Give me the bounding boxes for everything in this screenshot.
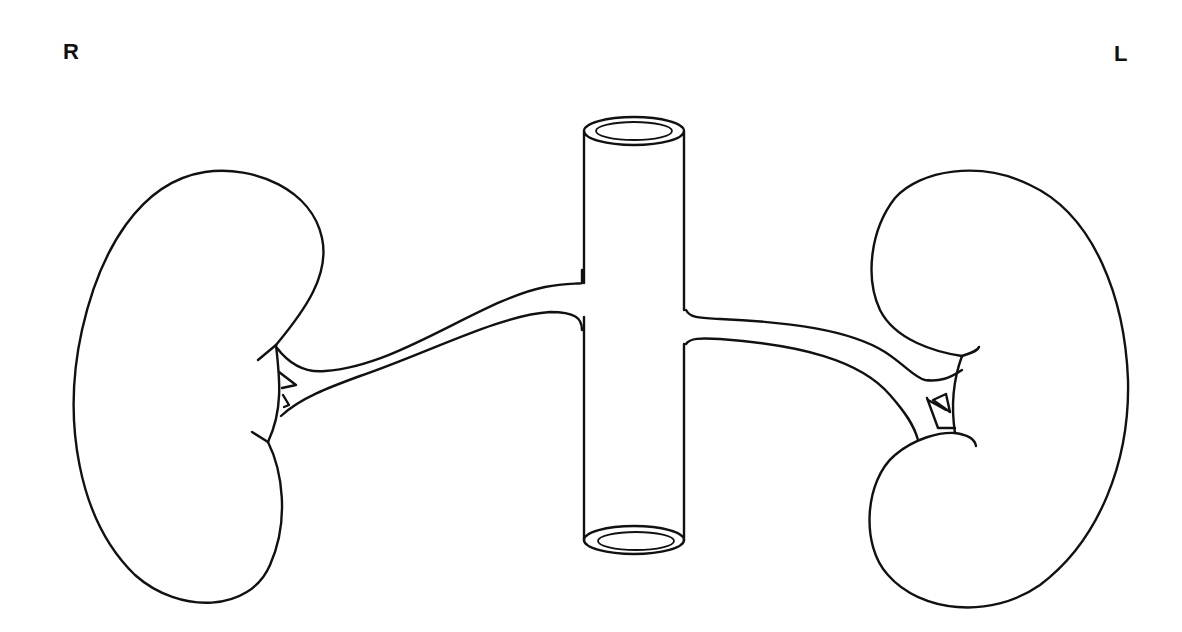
right-renal-vein bbox=[268, 270, 582, 442]
left-renal-vein bbox=[686, 310, 962, 440]
kidney-vena-cava-diagram bbox=[0, 0, 1182, 632]
inferior-vena-cava bbox=[584, 117, 684, 554]
left-kidney bbox=[870, 171, 1129, 608]
